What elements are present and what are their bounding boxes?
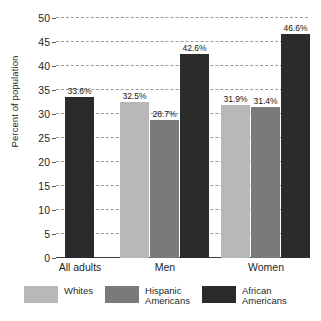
y-tick-label-15: 15 — [38, 180, 50, 192]
legend-swatch-african-americans — [202, 286, 236, 303]
legend-label-whites: Whites — [64, 285, 93, 296]
legend-label-hispanic-americans: Hispanic Americans — [145, 285, 190, 305]
bar-value-women-whites: 31.9% — [223, 94, 247, 104]
x-label-all-adults: All adults — [59, 261, 102, 273]
bar-women-african-americans[interactable]: 46.6% — [281, 34, 310, 258]
bar-women-whites[interactable]: 31.9% — [221, 105, 250, 258]
bar-men-african-americans[interactable]: 42.6% — [180, 54, 209, 258]
bar-men-hispanic-americans[interactable]: 28.7% — [150, 120, 179, 258]
legend: Whites Hispanic Americans African Americ… — [24, 285, 304, 315]
bar-value-all-adults-african-americans: 33.6% — [67, 86, 91, 96]
y-tick-label-40: 40 — [38, 60, 50, 72]
legend-item-african-americans[interactable]: African Americans — [202, 285, 287, 305]
legend-swatch-whites — [24, 286, 58, 303]
legend-item-whites[interactable]: Whites — [24, 285, 93, 303]
bar-men-whites[interactable]: 32.5% — [120, 102, 149, 258]
bars-layer: 33.6% 32.5% 28.7% 42.6% 31.9% 31.4% 46.6… — [56, 18, 308, 258]
legend-swatch-hispanic-americans — [105, 286, 139, 303]
y-tick-label-25: 25 — [38, 132, 50, 144]
legend-label-african-americans: African Americans — [242, 285, 287, 305]
y-tick-label-35: 35 — [38, 84, 50, 96]
plot-area: 0 5 10 15 20 25 30 35 — [56, 18, 308, 258]
legend-item-hispanic-americans[interactable]: Hispanic Americans — [105, 285, 190, 305]
bar-all-adults-african-americans[interactable]: 33.6% — [65, 97, 94, 258]
y-tick-label-0: 0 — [44, 252, 50, 264]
y-tick-label-5: 5 — [44, 228, 50, 240]
x-label-men: Men — [155, 261, 175, 273]
x-label-women: Women — [248, 261, 284, 273]
bar-value-women-hispanic-americans: 31.4% — [253, 96, 277, 106]
tick-stub-0 — [52, 258, 56, 259]
y-tick-label-50: 50 — [38, 12, 50, 24]
y-tick-label-10: 10 — [38, 204, 50, 216]
bar-women-hispanic-americans[interactable]: 31.4% — [251, 107, 280, 258]
bar-value-women-african-americans: 46.6% — [283, 23, 307, 33]
y-tick-label-20: 20 — [38, 156, 50, 168]
bar-value-men-hispanic-americans: 28.7% — [152, 109, 176, 119]
y-tick-label-30: 30 — [38, 108, 50, 120]
x-axis-labels: All adults Men Women — [56, 261, 308, 277]
y-axis-title: Percent of population — [9, 22, 20, 182]
y-tick-label-45: 45 — [38, 36, 50, 48]
bar-value-men-african-americans: 42.6% — [182, 43, 206, 53]
bar-chart: Percent of population 0 5 10 15 20 25 — [0, 0, 321, 321]
bar-value-men-whites: 32.5% — [122, 91, 146, 101]
